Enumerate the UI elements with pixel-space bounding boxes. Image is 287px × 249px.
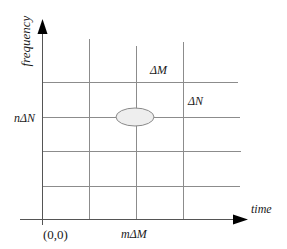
x-axis-label: time: [251, 202, 272, 216]
x-tick-label: mΔM: [121, 227, 148, 241]
time-step-label: ΔM: [149, 63, 168, 77]
x-axis-arrow-icon: [233, 215, 248, 225]
freq-step-label: ΔN: [187, 94, 204, 108]
grid-vertical-lines: [90, 39, 184, 219]
time-frequency-diagram: frequency time (0,0) nΔN mΔM ΔM ΔN: [0, 0, 287, 249]
y-axis-label: frequency: [18, 15, 33, 66]
origin-label: (0,0): [43, 227, 68, 242]
y-axis-arrow-icon: [38, 19, 48, 34]
grid-horizontal-lines: [43, 83, 241, 187]
y-tick-label: nΔN: [14, 111, 36, 125]
highlight-ellipse: [116, 108, 154, 126]
